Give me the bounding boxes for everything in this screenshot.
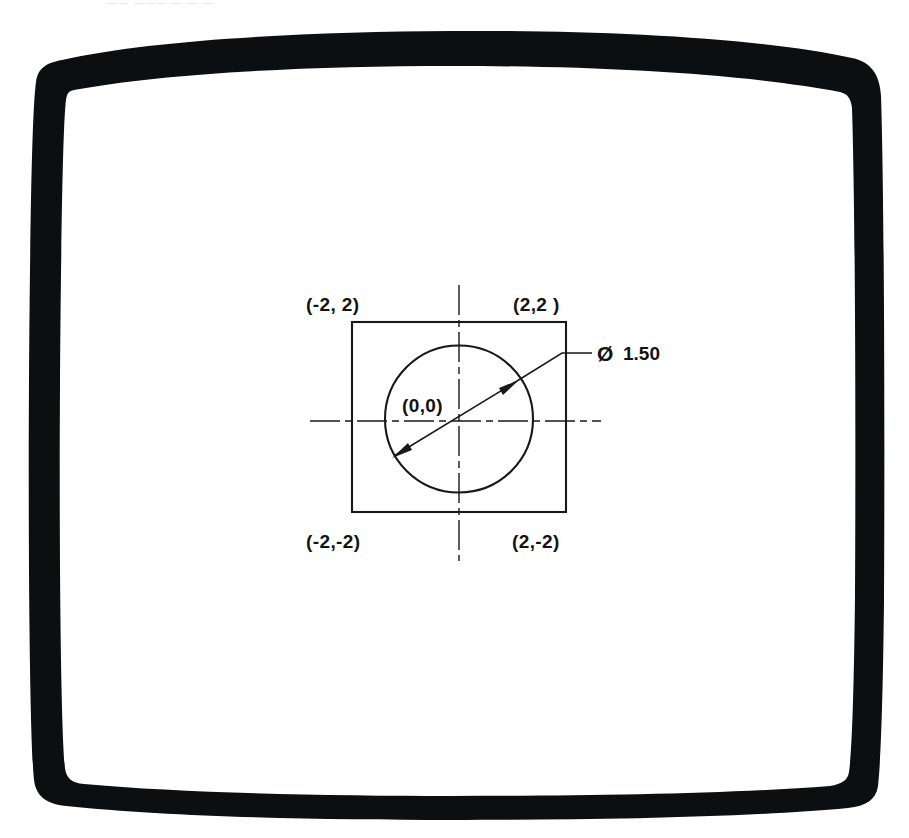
engineering-drawing: (-2, 2) (2,2 ) (-2,-2) (2,-2) (0,0) Ø 1.… xyxy=(0,0,909,838)
label-corner-top-left: (-2, 2) xyxy=(306,294,359,315)
diameter-symbol-icon: Ø xyxy=(597,342,613,365)
label-corner-bottom-right: (2,-2) xyxy=(512,531,560,552)
label-corner-top-right: (2,2 ) xyxy=(513,294,560,315)
dimension-arrowhead-upper-right xyxy=(499,380,519,395)
diameter-leader-line xyxy=(517,353,592,381)
label-center-origin: (0,0) xyxy=(402,395,443,416)
label-corner-bottom-left: (-2,-2) xyxy=(306,531,361,552)
diameter-value-label: 1.50 xyxy=(623,343,660,364)
diameter-dimension-line xyxy=(394,381,517,456)
dimension-arrowhead-lower-left xyxy=(392,443,412,458)
drawing-page: —— ——— — — — (-2, 2) (2,2 ) (-2,-2) (2,-… xyxy=(0,0,909,838)
